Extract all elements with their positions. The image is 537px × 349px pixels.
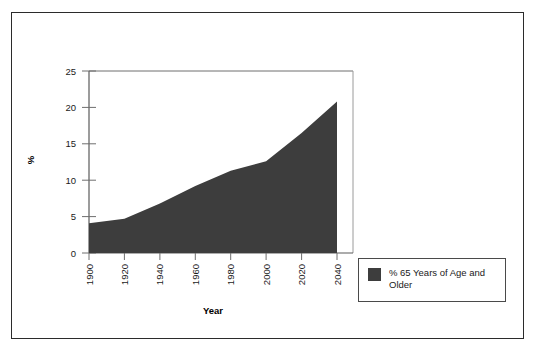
y-tick-label: 5 — [71, 211, 76, 222]
x-axis-title: Year — [203, 305, 223, 316]
legend-label-line1: % 65 Years of Age — [389, 267, 467, 278]
area-series-65-and-older — [89, 102, 337, 253]
y-tick-labels: 0 5 10 15 20 25 — [65, 66, 76, 259]
y-tick-label: 0 — [71, 248, 76, 259]
x-tick-label: 2020 — [296, 264, 307, 285]
x-tick-label: 2040 — [332, 264, 343, 285]
y-tick-label: 20 — [65, 102, 76, 113]
legend-swatch-icon — [368, 268, 381, 281]
x-tick-label: 2000 — [261, 264, 272, 285]
legend-label: % 65 Years of Age and Older — [389, 267, 497, 291]
y-axis-title: % — [25, 155, 36, 164]
legend-item: % 65 Years of Age and Older — [368, 267, 497, 291]
x-tick-labels: 1900 1920 1940 1960 1980 2000 2020 2040 — [84, 264, 343, 285]
x-tick-label: 1960 — [190, 264, 201, 285]
x-axis-ticks — [89, 253, 337, 260]
chart-figure: 0 5 10 15 20 25 % 1900 1920 1940 1960 — [0, 0, 537, 349]
x-tick-label: 1900 — [84, 264, 95, 285]
x-tick-label: 1980 — [225, 264, 236, 285]
x-tick-label: 1940 — [154, 264, 165, 285]
y-tick-label: 25 — [65, 66, 76, 77]
chart-legend: % 65 Years of Age and Older — [358, 258, 506, 302]
x-tick-label: 1920 — [119, 264, 130, 285]
y-tick-label: 15 — [65, 138, 76, 149]
y-tick-label: 10 — [65, 175, 76, 186]
